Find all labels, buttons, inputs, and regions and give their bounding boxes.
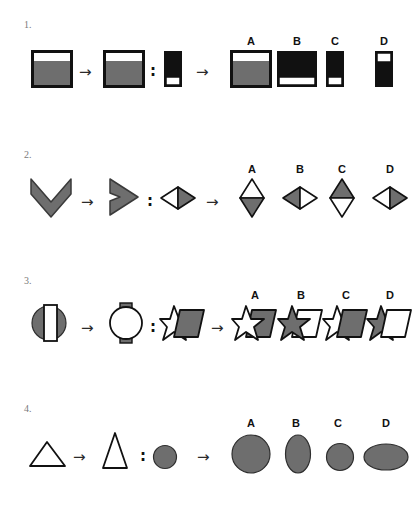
problem-2-option-A[interactable] xyxy=(238,177,266,219)
problem-4-colon: : xyxy=(140,449,146,464)
problem-2-arrow-1: → xyxy=(81,195,94,210)
problem-1-prompt-second xyxy=(103,50,145,88)
problem-3-option-B[interactable] xyxy=(277,304,325,342)
problem-1-option-B-label: B xyxy=(285,36,309,47)
problem-4-option-A-label: A xyxy=(239,418,263,429)
problem-4-option-B[interactable] xyxy=(283,433,313,475)
problem-2-option-C[interactable] xyxy=(328,177,356,219)
problem-4-option-B-label: B xyxy=(284,418,308,429)
problem-1-row: → : → A xyxy=(0,36,418,106)
problem-3-number: 3. xyxy=(24,276,32,286)
problem-3-option-C-label: C xyxy=(334,290,358,301)
problem-1-arrow-2: → xyxy=(196,65,209,80)
problem-2-prompt-second xyxy=(107,176,141,218)
problem-4-arrow-1: → xyxy=(73,450,86,465)
problem-4-option-D-label: D xyxy=(374,418,398,429)
problem-3-prompt-third xyxy=(159,304,207,342)
problem-4-option-D[interactable] xyxy=(362,442,410,472)
problem-1-option-A[interactable] xyxy=(230,50,272,88)
problem-4-arrow-2: → xyxy=(197,450,210,465)
problem-2-option-A-label: A xyxy=(240,164,264,175)
problem-1-option-D[interactable] xyxy=(374,50,394,88)
problem-2-arrow-2: → xyxy=(206,195,219,210)
problem-1-prompt-third xyxy=(163,50,183,88)
problem-4-prompt-third xyxy=(152,444,178,470)
problem-1-option-D-label: D xyxy=(372,36,396,47)
problem-3-row: → : → A xyxy=(0,292,418,362)
problem-4-prompt-first xyxy=(28,440,68,468)
problem-1-arrow-1: → xyxy=(79,65,92,80)
worksheet-sheet: 1. → : xyxy=(0,0,418,523)
problem-4-row: → : → A B xyxy=(0,420,418,490)
problem-2-prompt-first xyxy=(28,176,74,218)
problem-2-option-D-label: D xyxy=(378,164,402,175)
problem-3-option-C[interactable] xyxy=(322,304,370,342)
problem-3-option-B-label: B xyxy=(289,290,313,301)
problem-2-option-B-label: B xyxy=(288,164,312,175)
problem-1-option-C[interactable] xyxy=(325,50,345,88)
problem-1-number: 1. xyxy=(24,20,32,30)
problem-3-option-A[interactable] xyxy=(231,304,279,342)
problem-1-prompt-first xyxy=(31,50,73,88)
problem-4-number: 4. xyxy=(24,404,32,414)
problem-3-option-D[interactable] xyxy=(366,304,414,342)
problem-3-option-D-label: D xyxy=(378,290,402,301)
problem-3-arrow-2: → xyxy=(211,321,224,336)
problem-1-option-A-label: A xyxy=(239,36,263,47)
problem-2-prompt-third xyxy=(159,185,197,211)
problem-2-option-C-label: C xyxy=(330,164,354,175)
problem-2-option-D[interactable] xyxy=(371,185,409,211)
problem-2-colon: : xyxy=(147,194,153,209)
problem-2-row: → : → A B xyxy=(0,166,418,236)
problem-4-option-C-label: C xyxy=(326,418,350,429)
problem-2-number: 2. xyxy=(24,150,32,160)
problem-3-arrow-1: → xyxy=(81,321,94,336)
problem-4-option-A[interactable] xyxy=(230,433,272,475)
problem-2-option-B[interactable] xyxy=(281,185,319,211)
problem-3-option-A-label: A xyxy=(243,290,267,301)
problem-4-prompt-second xyxy=(100,431,130,471)
problem-3-prompt-first xyxy=(28,302,72,344)
problem-1-option-B[interactable] xyxy=(276,50,318,88)
problem-3-colon: : xyxy=(150,320,156,335)
problem-3-prompt-second xyxy=(105,301,147,345)
problem-1-colon: : xyxy=(150,64,156,79)
problem-1-option-C-label: C xyxy=(323,36,347,47)
problem-4-option-C[interactable] xyxy=(325,442,355,472)
